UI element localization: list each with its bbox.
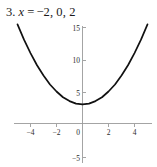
y-tick-label-10: 10 <box>73 56 81 65</box>
x-tick-label-neg4: −4 <box>27 128 35 137</box>
y-tick-label-5: 5 <box>76 89 80 98</box>
x-tick-label-0: 0 <box>76 128 80 137</box>
x-tick-label-4: 4 <box>133 128 137 137</box>
x-tick-label-neg2: −2 <box>53 128 61 137</box>
y-tick-label-15: 15 <box>73 24 81 33</box>
parabola-plot: −4 −2 0 2 4 15 10 5 −5 <box>0 0 157 167</box>
y-tick-label-neg5: −5 <box>72 154 80 163</box>
figure-container: 3.x=−2, 0, 2 −4 −2 0 2 4 15 10 <box>0 0 157 167</box>
x-tick-label-2: 2 <box>107 128 111 137</box>
